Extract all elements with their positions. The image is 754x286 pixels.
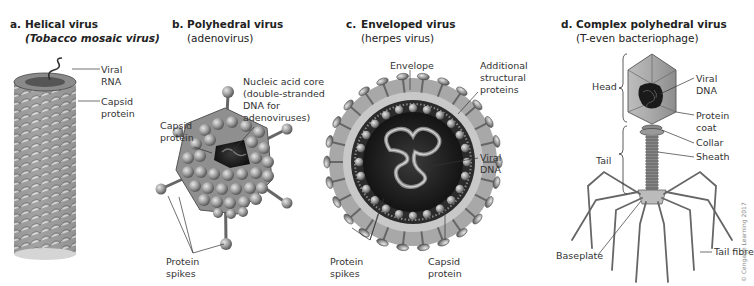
enveloped-virus-drawing xyxy=(324,73,502,252)
panel-letter: b. xyxy=(172,17,187,31)
label-nucleic-acid-core: Nucleic acid core (double-stranded DNA f… xyxy=(243,76,325,124)
label-tail: Tail xyxy=(596,155,611,167)
label-protein-spikes-b: Protein spikes xyxy=(166,256,199,280)
label-line: Protein xyxy=(696,110,729,122)
panel-letter: a. xyxy=(10,17,25,31)
label-line: RNA xyxy=(101,76,122,88)
panel-title-text: Helical virus xyxy=(25,18,98,30)
panel-a-title: a.Helical virus (Tobacco mosaic virus) xyxy=(10,17,160,45)
panel-title-text: Enveloped virus xyxy=(361,18,456,30)
panel-subtitle: (herpes virus) xyxy=(346,31,456,45)
label-line: Viral xyxy=(696,73,717,85)
panel-subtitle: (T-even bacteriophage) xyxy=(561,31,727,45)
label-capsid-protein-b: Capsid protein xyxy=(160,120,194,144)
label-viral-dna-c: Viral DNA xyxy=(480,152,501,176)
label-line: proteins xyxy=(480,84,528,96)
label-viral-rna: Viral RNA xyxy=(101,64,122,88)
label-tail-fibre: Tail fibre xyxy=(714,246,754,258)
label-line: Nucleic acid core xyxy=(243,76,325,88)
label-line: spikes xyxy=(330,268,363,280)
label-line: protein xyxy=(101,108,135,120)
label-line: Capsid xyxy=(160,120,194,132)
label-line: spikes xyxy=(166,268,199,280)
label-collar: Collar xyxy=(696,137,723,149)
label-line: Capsid xyxy=(101,96,135,108)
label-line: Protein xyxy=(330,256,363,268)
label-line: Viral xyxy=(101,64,122,76)
panel-b-title: b.Polyhedral virus (adenovirus) xyxy=(172,17,283,45)
label-line: structural xyxy=(480,72,528,84)
label-viral-dna-d: Viral DNA xyxy=(696,73,717,97)
label-line: Capsid xyxy=(428,256,462,268)
label-protein-coat: Protein coat xyxy=(696,110,729,134)
label-line: protein xyxy=(428,268,462,280)
label-line: DNA xyxy=(696,85,717,97)
label-capsid-protein-a: Capsid protein xyxy=(101,96,135,120)
label-head: Head xyxy=(592,81,617,93)
copyright-credit: © Cengage Learning 2017 xyxy=(740,202,747,282)
label-line: protein xyxy=(160,132,194,144)
label-line: Viral xyxy=(480,152,501,164)
label-capsid-protein-c: Capsid protein xyxy=(428,256,462,280)
label-additional-structural-proteins: Additional structural proteins xyxy=(480,60,528,96)
panel-d-title: d.Complex polyhedral virus (T-even bacte… xyxy=(561,17,727,45)
label-line: DNA for xyxy=(243,100,325,112)
panel-subtitle: (Tobacco mosaic virus) xyxy=(10,31,160,45)
label-protein-spikes-c: Protein spikes xyxy=(330,256,363,280)
label-line: adenoviruses) xyxy=(243,112,325,124)
panel-subtitle: (adenovirus) xyxy=(172,31,283,45)
panel-letter: d. xyxy=(561,17,576,31)
label-line: Protein xyxy=(166,256,199,268)
label-line: DNA xyxy=(480,164,501,176)
label-baseplate: Baseplate xyxy=(556,250,603,262)
label-line: (double-stranded xyxy=(243,88,325,100)
label-line: Additional xyxy=(480,60,528,72)
label-line: coat xyxy=(696,122,729,134)
helical-virus-drawing xyxy=(14,58,76,260)
label-envelope: Envelope xyxy=(390,60,434,72)
panel-letter: c. xyxy=(346,17,361,31)
label-sheath: Sheath xyxy=(696,151,729,163)
panel-title-text: Complex polyhedral virus xyxy=(576,18,727,30)
panel-title-text: Polyhedral virus xyxy=(187,18,283,30)
panel-c-title: c.Enveloped virus (herpes virus) xyxy=(346,17,456,45)
